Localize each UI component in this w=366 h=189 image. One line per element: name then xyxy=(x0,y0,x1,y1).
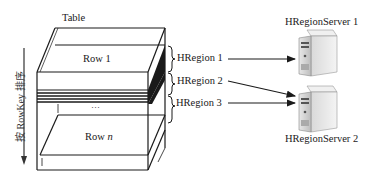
hregionserver-2-label: HRegionServer 2 xyxy=(285,133,358,145)
row-1-prefix: Row xyxy=(83,53,103,64)
row-n-label: Row n xyxy=(85,131,113,143)
hregion-1-label: HRegion 1 xyxy=(177,52,223,64)
region-braces xyxy=(168,46,175,123)
table-label: Table xyxy=(62,12,85,24)
row-n-index: n xyxy=(107,131,112,142)
table-block xyxy=(37,28,165,170)
hregionserver-1-label: HRegionServer 1 xyxy=(285,16,358,28)
arrow-hregion-2 xyxy=(228,81,295,96)
hregion-3-label: HRegion 3 xyxy=(176,97,222,109)
row-1-label: Row 1 xyxy=(83,53,111,65)
row-n-prefix: Row xyxy=(85,131,105,142)
server-tower-icon xyxy=(299,30,337,76)
hregion-2-label: HRegion 2 xyxy=(177,75,223,87)
rows-ellipsis: ··· xyxy=(91,101,100,113)
region-arrows xyxy=(228,59,295,103)
sort-label: 按 RowKey 排序 xyxy=(12,71,27,142)
row-1-index: 1 xyxy=(105,53,110,64)
server-tower-icon xyxy=(299,86,337,132)
hbase-region-diagram xyxy=(0,0,366,189)
